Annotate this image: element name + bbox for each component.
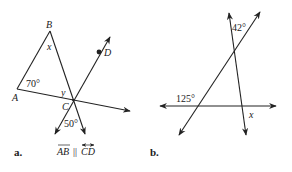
label-b: B: [46, 19, 52, 30]
label-a: A: [11, 92, 19, 103]
angle-50-label: 50°: [64, 118, 78, 129]
label-c: C: [62, 101, 69, 112]
figure-a: B A C D x 70° y 50° a. AB || CD: [11, 19, 130, 158]
figure-b: 42° 125° x b.: [150, 12, 276, 158]
geometry-figures: B A C D x 70° y 50° a. AB || CD 42° 125°…: [0, 0, 292, 172]
parallel-note: AB || CD: [56, 145, 96, 157]
angle-125-label: 125°: [176, 93, 195, 104]
parallel-symbol: ||: [73, 146, 77, 157]
angle-y-label: y: [60, 87, 66, 98]
angle-x-label-b: x: [248, 109, 254, 120]
angle-x-label: x: [46, 41, 52, 52]
point-c: [72, 99, 74, 101]
segment-ab-text: AB: [56, 146, 69, 157]
line-cd-text: CD: [81, 146, 96, 157]
angle-70-label: 70°: [26, 78, 40, 89]
diagonal-line: [179, 12, 260, 135]
caption-a: a.: [14, 146, 23, 158]
caption-b: b.: [150, 146, 159, 158]
angle-42-label: 42°: [232, 22, 246, 33]
label-d: D: [103, 47, 112, 58]
point-d: [97, 50, 102, 55]
